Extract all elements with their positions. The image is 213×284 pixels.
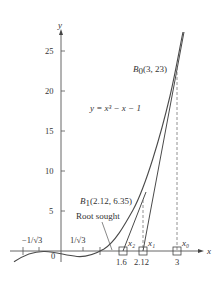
neg-inv-sqrt3-label: −1/√3 [22,235,42,245]
y-axis-label: y [57,20,62,30]
point-b1-label: B1(2.12, 6.35) [80,196,132,208]
y-tick-20: 20 [45,86,54,96]
root-sought-label: Root sought [76,211,120,221]
point-b0-label: B0(3, 23) [133,64,167,76]
equation-label: y = x³ − x − 1 [89,103,141,113]
x-axis-arrow-icon [198,249,204,253]
x2-label: x₂ [127,238,135,248]
newton-method-diagram: y x 25 20 15 10 5 −1/√3 1/√3 0 1.6 2.12 … [0,0,213,284]
y-tick-15: 15 [45,126,54,136]
x0-label: x₀ [181,238,189,248]
x-value-2-12: 2.12 [134,257,149,267]
x-axis-label: x [206,246,211,256]
y-tick-25: 25 [45,46,54,56]
y-tick-5: 5 [49,206,53,216]
x-value-3: 3 [175,257,179,267]
x1-label: x₁ [147,238,155,248]
x-value-1-6: 1.6 [116,257,127,267]
y-tick-10: 10 [45,166,54,176]
inv-sqrt3-label: 1/√3 [70,235,86,245]
root-sought-pointer [102,222,112,250]
y-ticks: 25 20 15 10 5 [45,46,65,216]
